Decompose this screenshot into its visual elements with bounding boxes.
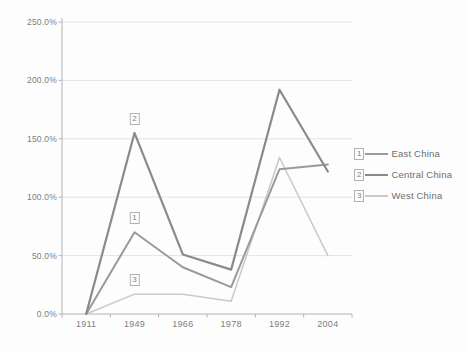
legend-label: Central China xyxy=(391,169,452,180)
legend-line-swatch xyxy=(365,195,388,197)
x-axis-tick-label: 1966 xyxy=(172,319,193,329)
legend-item-west-china: 3 West China xyxy=(354,189,452,202)
x-axis-tick-label: 2004 xyxy=(317,319,338,329)
legend-item-east-china: 1 East China xyxy=(354,147,452,160)
x-axis-tick-label: 1949 xyxy=(124,319,145,329)
chart-legend: 1 East China 2 Central China 3 West Chin… xyxy=(354,147,452,210)
legend-line-swatch xyxy=(365,153,388,155)
legend-label: East China xyxy=(391,148,439,159)
legend-item-central-china: 2 Central China xyxy=(354,168,452,181)
legend-label: West China xyxy=(391,190,442,201)
series-line-east-china xyxy=(86,164,328,314)
chart-figure: 1 2 3 1 East China 2 Central China 3 Wes… xyxy=(0,0,466,351)
y-axis-tick-label: 100.0% xyxy=(14,192,57,202)
legend-key-box: 1 xyxy=(354,148,364,160)
legend-key-box: 3 xyxy=(354,190,364,202)
y-axis-tick-label: 200.0% xyxy=(14,75,57,85)
x-axis-tick-label: 1992 xyxy=(269,319,290,329)
y-axis-tick-label: 50.0% xyxy=(14,251,57,261)
series-point-label-west-china: 3 xyxy=(129,274,139,286)
series-line-central-china xyxy=(86,90,328,314)
y-axis-tick-label: 250.0% xyxy=(14,17,57,27)
series-point-label-central-china: 2 xyxy=(129,113,139,125)
series-point-label-east-china: 1 xyxy=(129,212,139,224)
legend-line-swatch xyxy=(365,174,388,176)
x-axis-tick-label: 1911 xyxy=(76,319,97,329)
y-axis-tick-label: 150.0% xyxy=(14,134,57,144)
x-axis-tick-label: 1978 xyxy=(221,319,242,329)
y-axis-tick-label: 0.0% xyxy=(14,309,57,319)
legend-key-box: 2 xyxy=(354,169,364,181)
